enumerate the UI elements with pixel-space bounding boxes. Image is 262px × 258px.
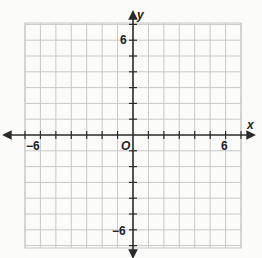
x-tick-label-neg6: −6 — [26, 139, 40, 153]
origin-label: O — [121, 139, 131, 153]
y-tick-label-neg6: −6 — [112, 224, 126, 238]
x-axis-label: x — [246, 118, 255, 132]
y-axis-label: y — [136, 8, 145, 22]
y-tick-label-6: 6 — [120, 33, 127, 47]
x-tick-label-6: 6 — [221, 139, 228, 153]
coordinate-plane: x y O −6 6 6 −6 — [0, 0, 262, 258]
